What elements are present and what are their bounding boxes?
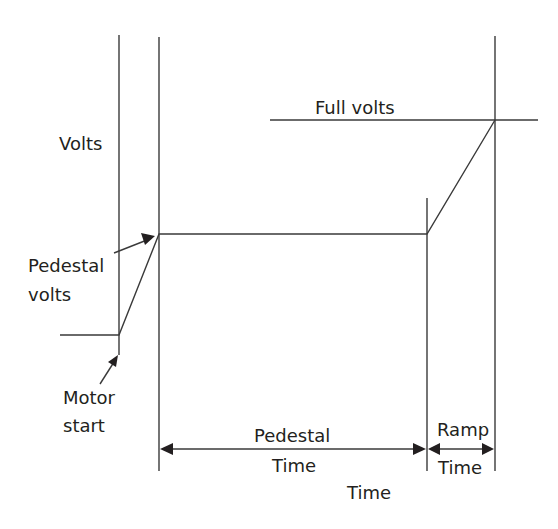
pedestal-time-arrow-right xyxy=(413,443,426,455)
ramp-time-arrow-right xyxy=(482,443,494,455)
ramp-time-arrow-left xyxy=(428,443,440,455)
motor-start-arrowhead xyxy=(108,355,118,367)
ramp-time-label-line1: Ramp xyxy=(437,419,489,440)
motor-start-label-line2: start xyxy=(63,415,105,436)
ramp-time-label-line2: Time xyxy=(437,457,482,478)
voltage-timing-diagram: Volts Full volts Pedestal volts Motor st… xyxy=(0,0,558,529)
voltage-profile-curve xyxy=(60,120,495,335)
motor-start-pointer xyxy=(100,362,114,384)
pedestal-volts-label-line1: Pedestal xyxy=(28,255,104,276)
pedestal-time-label-line1: Pedestal xyxy=(254,425,330,446)
pedestal-volts-label-line2: volts xyxy=(28,284,71,305)
pedestal-volts-arrowhead xyxy=(141,233,155,245)
motor-start-label-line1: Motor xyxy=(63,387,116,408)
pedestal-time-label-line2: Time xyxy=(271,455,316,476)
volts-axis-label: Volts xyxy=(59,133,102,154)
pedestal-time-arrow-left xyxy=(160,443,173,455)
full-volts-label: Full volts xyxy=(315,97,395,118)
time-axis-label: Time xyxy=(346,482,391,503)
